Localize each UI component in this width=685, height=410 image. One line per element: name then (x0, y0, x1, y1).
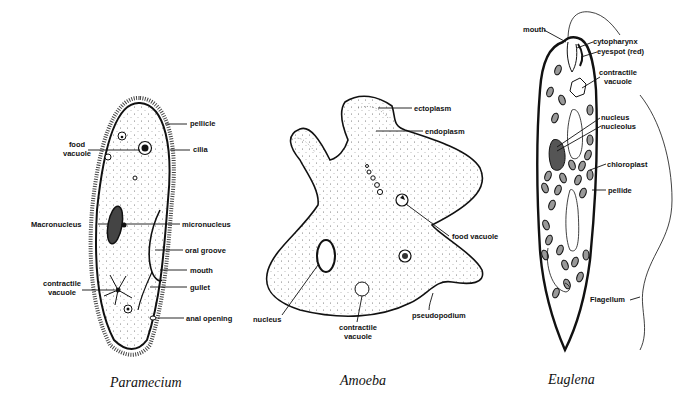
label-food-vacuole-line1: food (62, 140, 92, 149)
label-pellide: pellide (608, 186, 632, 195)
label-ectoplasm: ectoplasm (414, 104, 451, 113)
micronucleus (122, 223, 127, 228)
label-euglena-contractile-vacuole: contractile vacuole (598, 68, 638, 86)
anal-opening (150, 316, 156, 320)
diagram-drawing (0, 0, 685, 410)
label-nucleolus: nucleolus (601, 122, 636, 131)
label-contractile-vacuole-line1: contractile (42, 279, 82, 288)
label-pseudopodium: pseudopodium (412, 311, 466, 320)
label-flagellum: Flagellum (590, 295, 625, 304)
label-amoeba-food-vacuole: food vacuole (452, 232, 498, 241)
label-contractile-vacuole: contractile vacuole (42, 279, 82, 297)
label-euglena-contractile-vacuole-line1: contractile (598, 68, 638, 77)
label-euglena-nucleus: nucleus (601, 113, 629, 122)
label-pellicle: pellicle (190, 119, 215, 128)
caption-paramecium: Paramecium (110, 375, 182, 391)
label-gullet: gullet (190, 283, 210, 292)
label-cilia: cilia (193, 145, 208, 154)
amoeba-contractile-vacuole (355, 282, 369, 296)
paramecium-body (96, 103, 170, 349)
label-amoeba-contractile-vacuole-line2: vacuole (336, 332, 380, 341)
label-anal-opening: anal opening (186, 314, 232, 323)
label-contractile-vacuole-line2: vacuole (42, 288, 82, 297)
label-endoplasm: endoplasm (425, 127, 465, 136)
label-amoeba-contractile-vacuole-line1: contractile (336, 323, 380, 332)
label-cytopharynx: cytopharynx (593, 37, 638, 46)
label-macronucleus: Macronucleus (31, 220, 81, 229)
label-euglena-contractile-vacuole-line2: vacuole (598, 77, 638, 86)
label-food-vacuole-line2: vacuole (62, 149, 92, 158)
paramecium-illustration (82, 98, 190, 355)
label-euglena-mouth: mouth (523, 25, 546, 34)
caption-euglena: Euglena (548, 372, 595, 388)
label-micronucleus: micronucleus (182, 220, 231, 229)
label-food-vacuole: food vacuole (62, 140, 92, 158)
label-amoeba-contractile-vacuole: contractile vacuole (336, 323, 380, 341)
label-chloroplast: chloroplast (607, 160, 647, 169)
caption-amoeba: Amoeba (340, 373, 386, 389)
label-mouth: mouth (190, 266, 213, 275)
euglena-nucleus (549, 140, 565, 171)
label-eyespot: eyespot (red) (597, 47, 644, 56)
label-oral-groove: oral groove (185, 246, 226, 255)
amoeba-nucleus (317, 240, 335, 272)
label-amoeba-nucleus: nucleus (253, 315, 281, 324)
